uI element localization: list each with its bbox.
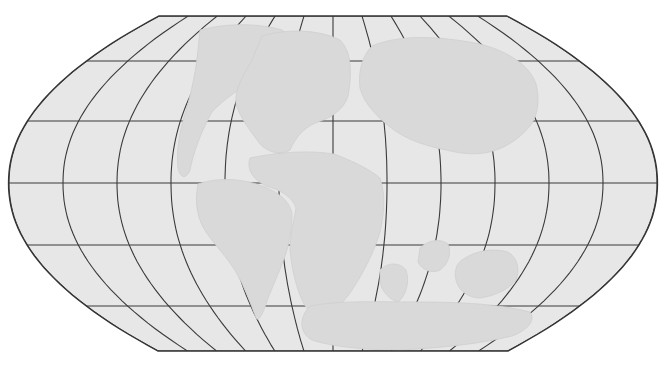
world-map <box>0 0 664 367</box>
paleogeographic-map <box>0 0 664 367</box>
